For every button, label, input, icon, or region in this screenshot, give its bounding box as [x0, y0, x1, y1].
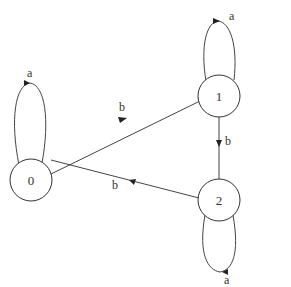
edge-1-2: b: [216, 116, 231, 180]
node-label: 1: [216, 89, 223, 104]
edge-label: a: [27, 66, 33, 80]
edge-0-0: a: [15, 66, 46, 165]
edge-label: b: [119, 100, 125, 114]
state-node-0: 0: [10, 159, 52, 201]
state-node-1: 1: [198, 75, 240, 117]
edge-2-2: a: [203, 215, 236, 287]
node-label: 2: [216, 193, 223, 208]
edge-label: b: [225, 134, 231, 148]
node-label: 0: [28, 173, 35, 188]
edge-label: a: [224, 273, 230, 287]
edge-label: b: [112, 178, 118, 192]
state-node-2: 2: [198, 179, 240, 221]
edge-2-0: b: [51, 160, 199, 198]
edge-1-1: a: [204, 9, 235, 81]
edge-0-1: b: [51, 100, 200, 174]
state-diagram: a b a b b a 0 1 2: [0, 0, 291, 287]
edge-label: a: [229, 9, 235, 23]
